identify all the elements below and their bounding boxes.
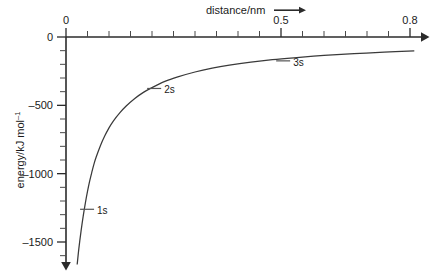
x-tick-label: 0.5: [273, 14, 288, 26]
x-axis-title: distance/nm: [206, 4, 265, 16]
y-tick-label: 0: [47, 31, 53, 43]
y-tick-label: –1500: [22, 236, 53, 248]
orbital-energy-chart: 00.50.8 0–500–1000–1500 distance/nm ener…: [0, 0, 432, 280]
y-axis-ticks: [57, 37, 66, 256]
annotation-2s: 2s: [147, 84, 175, 95]
annotation-label-3s: 3s: [293, 57, 304, 68]
y-axis-title: energy/kJ mol–1: [13, 112, 26, 189]
x-axis-title-arrowhead: [299, 7, 306, 14]
annotation-label-1s: 1s: [97, 205, 108, 216]
x-axis-arrowhead: [421, 32, 430, 42]
x-tick-label: 0: [63, 14, 69, 26]
y-axis-arrowhead: [61, 262, 71, 271]
annotation-label-2s: 2s: [164, 84, 175, 95]
x-axis-title-group: distance/nm: [206, 4, 306, 16]
x-tick-label: 0.8: [402, 14, 417, 26]
y-axis-title-exponent: –1: [13, 112, 22, 120]
y-axis-title-base: energy/kJ mol: [14, 120, 26, 188]
y-axis: [61, 37, 71, 271]
curve-annotations: 1s2s3s: [80, 57, 304, 216]
y-axis-tick-labels: 0–500–1000–1500: [22, 31, 53, 248]
x-axis: [66, 32, 430, 42]
y-tick-label: –1000: [22, 168, 53, 180]
chart-canvas: 00.50.8 0–500–1000–1500 distance/nm ener…: [0, 0, 432, 280]
y-tick-label: –500: [29, 99, 53, 111]
energy-curve: [77, 51, 414, 265]
y-axis-title-group: energy/kJ mol–1: [13, 112, 26, 189]
x-axis-ticks: [66, 28, 410, 37]
